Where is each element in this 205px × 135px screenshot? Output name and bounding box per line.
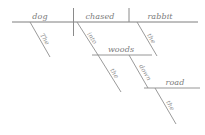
word-prep-object-road: road [166, 78, 185, 87]
word-article-the-dog: The [39, 32, 51, 46]
sentence-diagram-svg: dog chased rabbit woods road The into th… [0, 0, 205, 135]
word-verb-chased: chased [86, 12, 115, 21]
sentence-diagram-canvas: dog chased rabbit woods road The into th… [0, 0, 205, 135]
word-preposition-down: down [138, 63, 153, 82]
word-article-the-road: the [165, 99, 176, 112]
word-prep-object-woods: woods [108, 45, 134, 54]
word-object-rabbit: rabbit [147, 12, 173, 21]
word-article-the-woods: the [109, 67, 121, 80]
word-subject-dog: dog [32, 12, 47, 21]
word-article-the-rabbit: the [146, 32, 157, 45]
word-preposition-into: into [86, 31, 99, 46]
